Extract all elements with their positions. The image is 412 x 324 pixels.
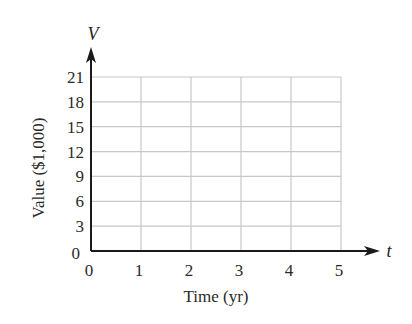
x-tick-label: 2 xyxy=(185,261,194,280)
x-tick-label: 1 xyxy=(135,261,144,280)
y-tick-label: 6 xyxy=(76,192,85,211)
y-tick-label: 3 xyxy=(76,217,85,236)
y-tick-label: 15 xyxy=(67,118,84,137)
y-tick-label: 21 xyxy=(67,68,84,87)
x-variable-label: t xyxy=(386,241,392,261)
y-tick-label: 0 xyxy=(72,244,81,263)
x-tick-labels: 012345 xyxy=(85,261,344,280)
y-axis-title: Value ($1,000) xyxy=(29,117,48,218)
x-tick-label: 3 xyxy=(235,261,244,280)
y-tick-label: 9 xyxy=(76,167,85,186)
chart: 012345 036912151821 V t Time (yr) Value … xyxy=(0,0,412,324)
x-axis-title: Time (yr) xyxy=(183,287,248,306)
x-tick-label: 5 xyxy=(335,261,344,280)
y-variable-label: V xyxy=(88,24,101,44)
grid xyxy=(91,77,341,251)
y-tick-labels: 036912151821 xyxy=(67,68,84,263)
y-tick-label: 18 xyxy=(67,93,84,112)
x-tick-label: 0 xyxy=(85,261,94,280)
y-tick-label: 12 xyxy=(67,143,84,162)
x-tick-label: 4 xyxy=(285,261,294,280)
